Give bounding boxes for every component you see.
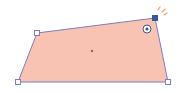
highlight-ticks-icon xyxy=(158,7,167,15)
vertex-handle-top-right-active[interactable] xyxy=(152,15,158,21)
center-point xyxy=(91,50,93,52)
vertex-handle-bottom-right[interactable] xyxy=(166,80,171,85)
vertex-handle-top-left[interactable] xyxy=(35,31,40,36)
vertex-handle-bottom-left[interactable] xyxy=(16,80,21,85)
shape-canvas[interactable] xyxy=(0,0,180,93)
rotate-handle-icon[interactable] xyxy=(143,25,151,33)
